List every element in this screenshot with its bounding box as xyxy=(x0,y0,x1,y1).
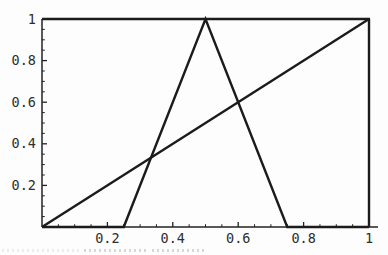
y-tick-label: 1 xyxy=(28,11,36,27)
chart-canvas: 0.20.40.60.8110.80.60.40.2 xyxy=(0,0,388,255)
y-tick-label: 0.6 xyxy=(12,94,36,110)
series-line-1 xyxy=(42,19,369,227)
y-tick-label: 0.8 xyxy=(12,52,36,68)
scan-artifact xyxy=(84,249,146,252)
y-tick-label: 0.2 xyxy=(12,177,36,193)
y-tick-label: 0.4 xyxy=(12,135,36,151)
scan-artifact xyxy=(152,249,204,252)
x-tick-label: 0.4 xyxy=(161,230,185,246)
x-tick-label: 1 xyxy=(365,230,373,246)
fuzzy-membership-plot: 0.20.40.60.8110.80.60.40.2 xyxy=(0,0,388,255)
scan-artifact xyxy=(2,249,80,252)
x-tick-label: 0.8 xyxy=(291,230,315,246)
x-tick-label: 0.2 xyxy=(95,230,119,246)
x-tick-label: 0.6 xyxy=(226,230,250,246)
